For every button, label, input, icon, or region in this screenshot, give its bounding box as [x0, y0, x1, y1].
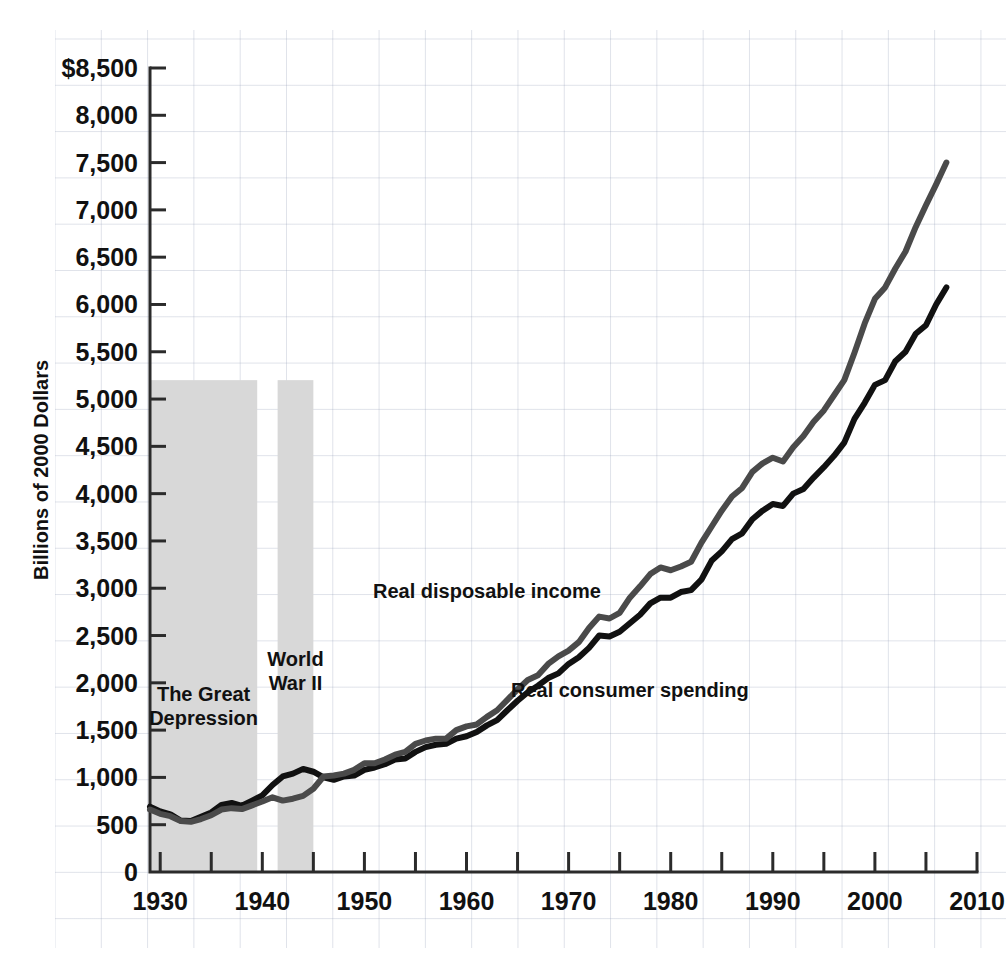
- x-axis-tick-label: 1980: [643, 887, 699, 915]
- y-axis-tick-label: 2,500: [75, 622, 138, 650]
- y-axis-tick-label: $8,500: [62, 54, 138, 82]
- y-axis-tick-label: 5,500: [75, 338, 138, 366]
- y-axis-tick-label: 6,000: [75, 290, 138, 318]
- annotation-great-depression-line1: The Great: [157, 683, 251, 705]
- y-axis-tick-label: 3,000: [75, 574, 138, 602]
- x-axis-tick-label: 1930: [132, 887, 188, 915]
- y-axis-tick-label: 1,500: [75, 716, 138, 744]
- y-axis-tick-label: 500: [96, 811, 138, 839]
- annotation-great-depression-line2: Depression: [149, 707, 258, 729]
- line-chart: 05001,0001,5002,0002,5003,0003,5004,0004…: [0, 0, 1006, 974]
- axis-lines: [150, 68, 977, 872]
- x-axis-tick-label: 1950: [337, 887, 393, 915]
- y-axis-tick-label: 7,500: [75, 149, 138, 177]
- y-axis-tick-label: 8,000: [75, 101, 138, 129]
- annotation-world-war-ii-line1: World: [267, 648, 323, 670]
- series-label-real-disposable-income: Real disposable income: [373, 580, 601, 602]
- y-axis-tick-label: 3,500: [75, 527, 138, 555]
- y-axis-tick-label: 0: [124, 858, 138, 886]
- series-line-real-disposable-income[interactable]: [150, 287, 946, 820]
- chart-figure: 05001,0001,5002,0002,5003,0003,5004,0004…: [0, 0, 1006, 974]
- x-axis-tick-label: 1940: [234, 887, 290, 915]
- shaded-region-great-depression: [150, 380, 257, 872]
- x-axis-tick-label: 1960: [439, 887, 495, 915]
- y-axis-title: Billions of 2000 Dollars: [30, 360, 52, 580]
- series-line-real-consumer-spending[interactable]: [150, 163, 946, 822]
- y-axis-tick-label: 6,500: [75, 243, 138, 271]
- y-axis-tick-label: 5,000: [75, 385, 138, 413]
- x-axis-tick-label: 1990: [745, 887, 801, 915]
- y-axis-tick-label: 2,000: [75, 669, 138, 697]
- y-axis-tick-label: 7,000: [75, 196, 138, 224]
- y-axis-tick-label: 4,000: [75, 480, 138, 508]
- y-axis-tick-label: 1,000: [75, 763, 138, 791]
- y-axis-tick-label: 4,500: [75, 432, 138, 460]
- x-axis-tick-label: 2010: [949, 887, 1005, 915]
- annotation-world-war-ii-line2: War II: [269, 672, 323, 694]
- x-axis-tick-label: 1970: [541, 887, 597, 915]
- x-axis-tick-label: 2000: [847, 887, 903, 915]
- series-label-real-consumer-spending: Real consumer spending: [511, 679, 749, 701]
